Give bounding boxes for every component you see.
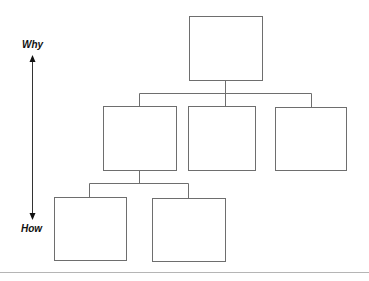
why-how-arrow-icon — [30, 55, 36, 220]
root-box — [189, 16, 263, 81]
why-label: Why — [22, 40, 43, 50]
grandchild-box-2 — [152, 198, 226, 262]
how-label: How — [21, 224, 42, 234]
child-box-1 — [103, 106, 177, 171]
why-how-hierarchy-diagram: Why How — [0, 0, 369, 281]
child-box-2 — [188, 106, 256, 171]
child-box-3 — [275, 107, 347, 171]
grandchild-box-1 — [54, 197, 127, 261]
